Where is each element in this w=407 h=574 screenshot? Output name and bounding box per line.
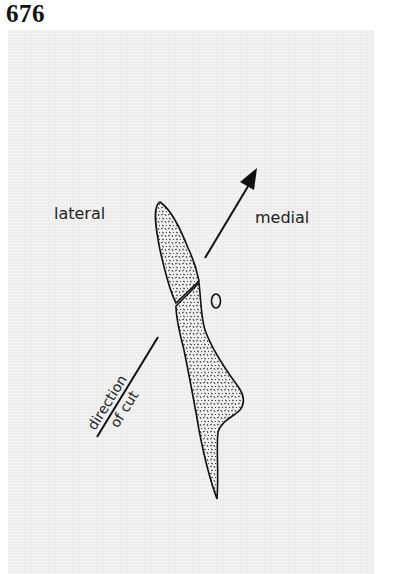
upper-bone-fragment <box>155 202 199 303</box>
medial-arrow-icon <box>205 168 257 258</box>
medial-label: medial <box>255 208 309 227</box>
lower-bone-fragment <box>176 283 244 499</box>
bone-cut-diagram: lateral medial direction of cut <box>0 0 407 574</box>
small-oval-marker <box>212 294 221 308</box>
lateral-label: lateral <box>54 204 105 223</box>
